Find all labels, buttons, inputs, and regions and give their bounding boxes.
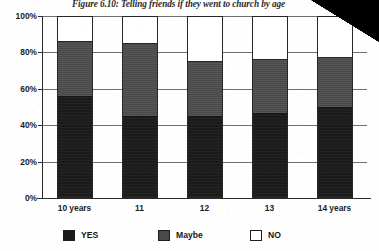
- y-axis-tick-label: 40%: [20, 120, 37, 130]
- bar-segment-no: [123, 17, 157, 44]
- bar-segment-yes: [253, 114, 287, 197]
- bar-segment-yes: [123, 117, 157, 197]
- y-tick-mark: [38, 198, 43, 199]
- y-tick-mark: [38, 16, 43, 17]
- plot-area: 0%20%40%60%80%100%: [42, 16, 367, 198]
- chart-title: Figure 6.10: Telling friends if they wen…: [72, 0, 362, 10]
- legend-item: YES: [63, 228, 98, 242]
- y-tick-mark: [38, 162, 43, 163]
- legend-swatch: [158, 230, 170, 241]
- chart-legend: YESMaybeNO: [42, 228, 352, 244]
- bar-segment-maybe: [318, 58, 352, 108]
- y-axis-line: [42, 16, 43, 199]
- legend-swatch: [250, 230, 262, 241]
- bar-segment-no: [58, 17, 92, 42]
- x-axis-tick-label: 12: [200, 203, 209, 213]
- y-axis-tick-label: 80%: [20, 47, 37, 57]
- stacked-bar: [252, 16, 288, 198]
- bar-segment-no: [253, 17, 287, 60]
- legend-label: YES: [81, 230, 98, 240]
- y-axis-tick-label: 0%: [25, 193, 37, 203]
- x-axis-tick-label: 14 years: [318, 203, 352, 213]
- bar-segment-yes: [188, 117, 222, 197]
- bar-segment-no: [318, 17, 352, 58]
- figure-root: Figure 6.10: Telling friends if they wen…: [0, 0, 379, 251]
- bar-segment-yes: [318, 108, 352, 197]
- x-axis-tick-label: 10 years: [58, 203, 92, 213]
- y-tick-mark: [38, 125, 43, 126]
- bar-segment-maybe: [123, 44, 157, 117]
- y-tick-mark: [38, 52, 43, 53]
- y-axis-tick-label: 60%: [20, 84, 37, 94]
- legend-label: Maybe: [176, 230, 203, 240]
- bar-segment-maybe: [253, 60, 287, 114]
- bar-segment-maybe: [188, 62, 222, 117]
- bar-segment-yes: [58, 97, 92, 197]
- x-axis-tick-label: 11: [135, 203, 144, 213]
- stacked-bar: [317, 16, 353, 198]
- y-axis-tick-label: 100%: [16, 11, 37, 21]
- legend-item: NO: [250, 228, 281, 242]
- legend-swatch: [63, 230, 75, 241]
- x-axis-tick-label: 13: [265, 203, 274, 213]
- stacked-bar: [122, 16, 158, 198]
- stacked-bar: [187, 16, 223, 198]
- legend-item: Maybe: [158, 228, 203, 242]
- y-tick-mark: [38, 89, 43, 90]
- x-axis-line: [37, 198, 371, 199]
- y-axis-tick-label: 20%: [20, 157, 37, 167]
- stacked-bar: [57, 16, 93, 198]
- bar-segment-no: [188, 17, 222, 62]
- legend-label: NO: [268, 230, 281, 240]
- bar-segment-maybe: [58, 42, 92, 97]
